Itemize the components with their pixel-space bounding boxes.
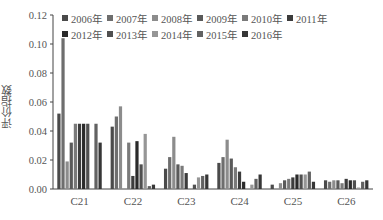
- bar: [205, 175, 208, 190]
- bar: [332, 180, 335, 189]
- bar: [291, 177, 294, 189]
- y-tick-label: 0.12: [29, 10, 47, 21]
- bar: [349, 180, 352, 189]
- legend-label: 2016年: [251, 27, 282, 42]
- bar-chart: 0.000.020.040.060.080.100.12C21C22C23C24…: [0, 0, 383, 220]
- bar: [135, 141, 138, 189]
- legend: 2006年2007年2008年2009年2010年2011年 2012年2013…: [62, 10, 372, 42]
- bar: [66, 161, 69, 189]
- bar: [144, 134, 147, 189]
- x-tick-label: C21: [70, 195, 88, 207]
- y-tick-label: 0.08: [29, 68, 47, 79]
- legend-label: 2008年: [161, 11, 192, 26]
- bar: [250, 185, 253, 189]
- bar: [70, 143, 73, 189]
- bar: [99, 143, 102, 189]
- bar: [217, 163, 220, 189]
- y-tick-label: 0.02: [29, 155, 47, 166]
- x-tick-label: C26: [337, 195, 356, 207]
- bar: [111, 127, 114, 189]
- legend-label: 2014年: [161, 27, 192, 42]
- bar: [115, 117, 118, 190]
- legend-label: 2010年: [251, 11, 282, 26]
- bar: [172, 137, 175, 189]
- legend-item: 2007年: [107, 11, 147, 26]
- bar: [197, 177, 200, 189]
- legend-item: 2015年: [197, 27, 237, 42]
- x-tick-label: C23: [177, 195, 196, 207]
- legend-swatch-icon: [197, 31, 203, 37]
- bar: [283, 180, 286, 189]
- legend-swatch-icon: [197, 15, 203, 21]
- legend-item: 2014年: [152, 27, 192, 42]
- bar: [340, 183, 343, 189]
- bar: [193, 185, 196, 189]
- y-tick-label: 0.06: [29, 97, 47, 108]
- bar: [242, 182, 245, 189]
- legend-item: 2016年: [242, 27, 282, 42]
- legend-label: 2011年: [296, 11, 327, 26]
- bar: [221, 157, 224, 189]
- legend-item: 2008年: [152, 11, 192, 26]
- legend-item: 2011年: [287, 11, 327, 26]
- bar: [61, 38, 64, 189]
- bar: [185, 173, 188, 189]
- legend-label: 2009年: [206, 11, 237, 26]
- legend-swatch-icon: [107, 15, 113, 21]
- bar: [168, 157, 171, 189]
- legend-swatch-icon: [107, 31, 113, 37]
- bar: [82, 124, 85, 189]
- bar: [57, 114, 60, 189]
- legend-swatch-icon: [152, 15, 158, 21]
- bar: [164, 169, 167, 189]
- bar: [271, 185, 274, 189]
- bar: [365, 180, 368, 189]
- bar: [279, 183, 282, 189]
- bar: [148, 186, 151, 189]
- legend-swatch-icon: [152, 31, 158, 37]
- x-tick-label: C22: [124, 195, 142, 207]
- legend-swatch-icon: [242, 15, 248, 21]
- bar: [131, 176, 134, 189]
- y-tick-label: 0.00: [29, 184, 47, 195]
- bar: [152, 185, 155, 189]
- legend-label: 2006年: [71, 11, 102, 26]
- bar: [353, 180, 356, 189]
- bar: [345, 179, 348, 189]
- legend-item: 2012年: [62, 27, 102, 42]
- bar: [259, 175, 262, 190]
- bar: [312, 182, 315, 189]
- bar: [180, 166, 183, 189]
- legend-item: 2006年: [62, 11, 102, 26]
- bar: [254, 179, 257, 189]
- legend-item: 2010年: [242, 11, 282, 26]
- legend-label: 2015年: [206, 27, 237, 42]
- bar: [226, 140, 229, 189]
- legend-swatch-icon: [62, 31, 68, 37]
- bar: [201, 176, 204, 189]
- bar: [139, 164, 142, 189]
- legend-label: 2007年: [116, 11, 147, 26]
- y-tick-label: 0.04: [29, 126, 48, 137]
- legend-label: 2012年: [71, 27, 102, 42]
- bar: [119, 106, 122, 189]
- bar: [336, 180, 339, 189]
- x-tick-label: C24: [230, 195, 249, 207]
- legend-item: 2013年: [107, 27, 147, 42]
- bar: [86, 124, 89, 189]
- bar: [230, 159, 233, 189]
- y-axis-label: 评价指数: [2, 85, 16, 129]
- bar: [361, 182, 364, 189]
- bar: [308, 172, 311, 189]
- bar: [127, 143, 130, 189]
- legend-row-2: 2012年2013年2014年2015年2016年: [62, 26, 372, 42]
- legend-label: 2013年: [116, 27, 147, 42]
- bar: [304, 175, 307, 190]
- bar: [357, 188, 360, 189]
- y-tick-label: 0.10: [29, 39, 47, 50]
- bar: [324, 180, 327, 189]
- bar: [176, 164, 179, 189]
- legend-swatch-icon: [62, 15, 68, 21]
- legend-swatch-icon: [242, 31, 248, 37]
- bar: [74, 124, 77, 189]
